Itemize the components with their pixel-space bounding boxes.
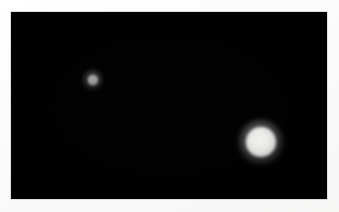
large-bright-body xyxy=(238,119,284,165)
small-body-disc xyxy=(88,75,99,86)
small-dim-body xyxy=(82,69,104,91)
image-viewport: Dark astronomical field with two blurred… xyxy=(0,0,339,212)
large-body-disc xyxy=(246,127,276,157)
sky-field xyxy=(11,12,327,199)
